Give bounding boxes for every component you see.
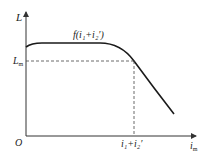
inductance-current-diagram [0, 0, 212, 159]
lm-label-sub: m [19, 61, 24, 67]
x-axis-label: im [190, 141, 197, 152]
curve-label: f(i₁+i₂′) [73, 30, 104, 40]
curve [26, 43, 174, 114]
x-marker-label: i₁+i₂′ [121, 139, 142, 149]
x-axis-label-sub: m [193, 146, 198, 152]
lm-label: Lm [13, 56, 23, 67]
y-axis-label: L [16, 12, 22, 23]
origin-label: O [15, 138, 22, 148]
